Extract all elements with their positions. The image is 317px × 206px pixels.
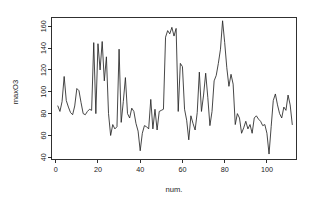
x-tick-label-20: 20 (94, 165, 102, 174)
data-series-group (58, 21, 292, 154)
x-axis-title: num. (166, 185, 183, 194)
y-tick-label-120: 120 (39, 64, 48, 76)
x-tick-label-40: 40 (136, 165, 144, 174)
y-tick-label-140: 140 (39, 42, 48, 54)
y-tick-label-40: 40 (39, 153, 48, 161)
y-tick-label-160: 160 (39, 20, 48, 32)
y-tick-label-60: 60 (39, 131, 48, 139)
x-tick-label-100: 100 (261, 165, 273, 174)
plot-frame (52, 18, 297, 160)
x-axis-tick-labels: 020406080100 (54, 165, 273, 174)
series-line-maxO3 (58, 21, 292, 154)
y-axis-title: maxO3 (11, 80, 20, 104)
y-tick-label-80: 80 (39, 110, 48, 118)
chart-canvas: 406080100120140160 020406080100 num. max… (0, 0, 317, 206)
x-tick-label-0: 0 (54, 165, 58, 174)
x-axis-ticks (56, 160, 267, 164)
line-chart-plot: 406080100120140160 020406080100 num. max… (0, 0, 317, 206)
y-axis-ticks (48, 26, 52, 157)
x-tick-label-60: 60 (178, 165, 186, 174)
x-tick-label-80: 80 (221, 165, 229, 174)
y-tick-label-100: 100 (39, 86, 48, 98)
y-axis-tick-labels: 406080100120140160 (39, 20, 48, 161)
